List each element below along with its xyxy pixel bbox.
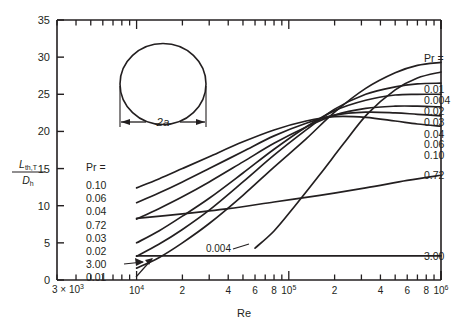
y-tick-label: 30 xyxy=(38,51,50,63)
legend-right-title: Pr = xyxy=(424,52,444,64)
inset-dimension-label: 2a xyxy=(156,116,170,128)
x-tick-label: 8 xyxy=(423,285,429,296)
x-axis-start-label: 3 × 103 xyxy=(52,283,84,295)
inline-label-072: 0.72 xyxy=(424,169,445,181)
x-tick-label: 2 xyxy=(332,285,338,296)
legend-right-item-0p03: 0.03 xyxy=(424,116,445,128)
legend-left-item-0p10: 0.10 xyxy=(86,179,107,191)
y-tick-label: 25 xyxy=(38,88,50,100)
curve-pr-0.01 xyxy=(137,62,441,268)
y-tick-label: 15 xyxy=(38,163,50,175)
y-tick-label: 20 xyxy=(38,125,50,137)
legend-right-item-0p02: 0.02 xyxy=(424,105,445,117)
figure-root: 05101520253035 10424681052468106 2a Lth,… xyxy=(0,0,473,331)
y-axis-tick-labels: 05101520253035 xyxy=(38,14,50,286)
legend-left-item-0p01: 0.01 xyxy=(86,271,107,283)
inline-leader-0004 xyxy=(233,244,249,249)
x-tick-label: 2 xyxy=(180,285,186,296)
curve-pr-0.02 xyxy=(137,83,441,256)
legend-left-title: Pr = xyxy=(86,161,106,173)
x-tick-label: 4 xyxy=(378,285,384,296)
curve-pr-0.04 xyxy=(137,106,441,219)
x-tick-label: 6 xyxy=(252,285,258,296)
legend-right: Pr =0.010.0040.020.030.040.060.100.723.0… xyxy=(424,52,450,262)
y-axis-title-denominator: Dh xyxy=(22,174,34,187)
axes-frame xyxy=(57,20,441,280)
callout-arrow-300 xyxy=(124,258,144,266)
y-axis-ticks xyxy=(57,20,64,280)
dim-arrowhead-left-icon xyxy=(121,119,130,125)
dim-arrowhead-right-icon xyxy=(196,119,205,125)
data-curves xyxy=(137,62,441,268)
x-tick-label: 106 xyxy=(433,284,448,296)
curve-pr-0.10 xyxy=(137,116,441,188)
circle-cross-section-icon xyxy=(120,44,206,125)
legend-left-item-0p03: 0.03 xyxy=(86,232,107,244)
y-tick-label: 0 xyxy=(44,274,50,286)
x-tick-label: 6 xyxy=(404,285,410,296)
chart-svg: 05101520253035 10424681052468106 2a Lth,… xyxy=(0,0,473,331)
legend-left-item-0p02: 0.02 xyxy=(86,245,107,257)
cross-section-inset: 2a xyxy=(120,44,206,129)
y-tick-label: 10 xyxy=(38,200,50,212)
x-tick-label: 4 xyxy=(225,285,231,296)
y-axis-title-numerator: Lth,T xyxy=(19,158,38,171)
x-tick-label: 105 xyxy=(281,284,296,296)
inline-label-300: 3.00 xyxy=(424,250,445,262)
x-tick-label: 8 xyxy=(271,285,277,296)
legend-left-item-3p00: 3.00 xyxy=(86,258,107,270)
x-axis-tick-labels: 10424681052468106 xyxy=(129,284,449,296)
legend-left: Pr =0.100.060.040.720.030.023.000.01 xyxy=(86,161,107,283)
legend-right-item-0p10: 0.10 xyxy=(424,149,445,161)
legend-left-item-0p72: 0.72 xyxy=(86,219,107,231)
legend-left-item-0p06: 0.06 xyxy=(86,192,107,204)
inline-label-0004: 0.004 xyxy=(206,243,231,254)
y-tick-label: 35 xyxy=(38,14,50,26)
y-tick-label: 5 xyxy=(44,237,50,249)
x-tick-label: 104 xyxy=(129,284,144,296)
legend-left-item-0p04: 0.04 xyxy=(86,205,107,217)
x-axis-title: Re xyxy=(237,307,251,319)
x-axis-ticks xyxy=(57,20,441,280)
